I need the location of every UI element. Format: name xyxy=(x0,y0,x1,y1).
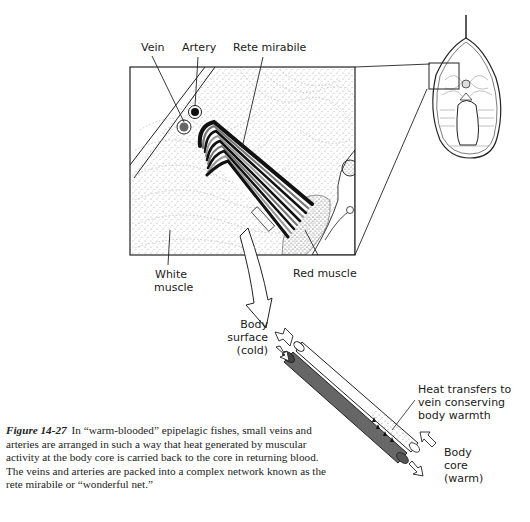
fish-cross-section xyxy=(429,15,501,158)
white-muscle-label-line1: White xyxy=(155,268,187,281)
artery-vessel xyxy=(189,106,202,119)
vein-label: Vein xyxy=(141,41,164,54)
figure-caption: Figure 14-27In “warm-blooded” epipelagic… xyxy=(6,424,336,492)
vein-vessel xyxy=(177,120,191,134)
artery-in-arrow xyxy=(420,432,436,447)
heat-transfer-label-line2: vein conserving xyxy=(418,396,505,409)
heat-transfer-label-line3: body warmth xyxy=(418,409,491,422)
detail-panel xyxy=(130,67,358,255)
body-surface-label-line1: Body xyxy=(230,318,268,331)
figure-number: Figure 14-27 xyxy=(6,424,67,436)
body-surface-label-line3: (cold) xyxy=(222,344,268,357)
artery-label: Artery xyxy=(182,41,216,54)
zoom-connector-top xyxy=(355,64,430,67)
figure: Vein Artery Rete mirabile White muscle R… xyxy=(0,0,530,522)
body-core-label-line2: core xyxy=(444,459,468,472)
artery-out-arrow xyxy=(275,328,293,346)
zoom-connector-bottom xyxy=(355,89,427,255)
heat-leader xyxy=(392,400,415,430)
vein-out-arrow xyxy=(409,461,423,476)
rete-mirabile-label: Rete mirabile xyxy=(233,41,306,54)
heat-transfer-label-line1: Heat transfers to xyxy=(418,383,511,396)
red-muscle-label: Red muscle xyxy=(293,267,357,280)
white-muscle-label-line2: muscle xyxy=(154,281,193,294)
body-core-label-line1: Body xyxy=(444,446,472,459)
body-core-label-line3: (warm) xyxy=(444,472,483,485)
body-surface-label-line2: surface xyxy=(222,331,268,344)
